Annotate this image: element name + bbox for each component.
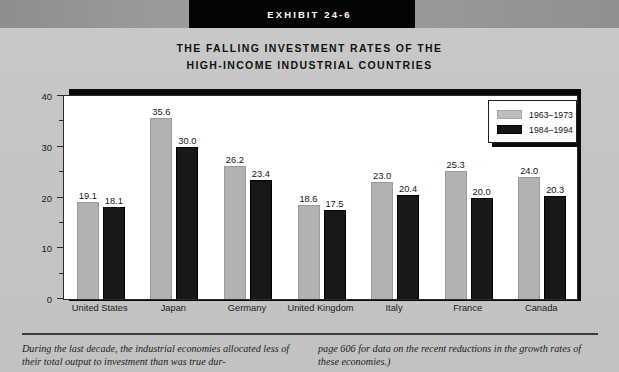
bar-value-label: 26.2 xyxy=(226,155,244,165)
legend-item-series-2: 1984–1994 xyxy=(497,122,576,137)
y-axis-tick-label: 0 xyxy=(30,295,52,304)
bar-value-label: 30.0 xyxy=(178,136,196,146)
y-axis-tick-minor xyxy=(59,222,64,223)
x-axis-label-germany: Germany xyxy=(228,303,266,313)
legend-swatch-icon-series-2 xyxy=(497,125,522,134)
bar-germany-series-1: 26.2 xyxy=(224,166,246,299)
bar-japan-series-2: 30.0 xyxy=(176,147,198,299)
x-axis-label-canada: Canada xyxy=(525,303,558,313)
bar-canada-series-1: 24.0 xyxy=(518,177,540,299)
bar-value-label: 24.0 xyxy=(520,166,538,176)
y-axis-tick-label: 10 xyxy=(30,244,52,253)
y-axis-tick-major xyxy=(57,95,64,96)
bar-japan-series-1: 35.6 xyxy=(150,118,172,299)
bar-value-label: 20.3 xyxy=(546,185,564,195)
bar-value-label: 20.4 xyxy=(399,184,417,194)
bar-france-series-1: 25.3 xyxy=(445,171,467,299)
y-axis-tick-minor xyxy=(59,120,64,121)
bar-france-series-2: 20.0 xyxy=(471,198,493,300)
bar-value-label: 18.1 xyxy=(105,196,123,206)
exhibit-page: EXHIBIT 24-6 THE FALLING INVESTMENT RATE… xyxy=(0,0,619,372)
legend-label-series-2: 1984–1994 xyxy=(529,125,573,135)
y-axis-tick-label: 40 xyxy=(30,92,52,101)
bar-canada-series-2: 20.3 xyxy=(544,196,566,299)
y-axis-tick-minor xyxy=(59,171,64,172)
y-axis-tick-major xyxy=(57,197,64,198)
exhibit-label: EXHIBIT 24-6 xyxy=(0,0,619,28)
caption: During the last decade, the industrial e… xyxy=(22,342,600,368)
chart-title-line-2: HIGH-INCOME INDUSTRIAL COUNTRIES xyxy=(0,57,619,74)
bar-value-label: 20.0 xyxy=(473,187,491,197)
y-axis-tick-major xyxy=(57,146,64,147)
chart-title-line-1: THE FALLING INVESTMENT RATES OF THE xyxy=(0,40,619,57)
bar-italy-series-1: 23.0 xyxy=(371,182,393,299)
bar-value-label: 25.3 xyxy=(447,160,465,170)
x-axis-label-italy: Italy xyxy=(386,303,403,313)
bar-value-label: 19.1 xyxy=(79,191,97,201)
legend-label-series-1: 1963–1973 xyxy=(529,110,573,120)
legend-item-series-1: 1963–1973 xyxy=(497,107,576,122)
y-axis-tick-label: 20 xyxy=(30,194,52,203)
y-axis-tick-minor xyxy=(59,273,64,274)
bar-value-label: 23.4 xyxy=(252,169,270,179)
bar-value-label: 35.6 xyxy=(152,107,170,117)
caption-column-right: page 606 for data on the recent reductio… xyxy=(318,342,600,368)
bar-germany-series-2: 23.4 xyxy=(250,180,272,299)
bar-value-label: 23.0 xyxy=(373,171,391,181)
bar-italy-series-2: 20.4 xyxy=(397,195,419,299)
caption-column-left: During the last decade, the industrial e… xyxy=(22,342,304,368)
bar-united-states-series-2: 18.1 xyxy=(103,207,125,299)
x-axis-label-united-states: United States xyxy=(72,303,128,313)
y-axis-tick-major xyxy=(57,298,64,299)
y-axis-tick-label: 30 xyxy=(30,143,52,152)
legend-swatch-icon-series-1 xyxy=(497,110,522,119)
bar-united-kingdom-series-1: 18.6 xyxy=(298,205,320,299)
x-axis-label-japan: Japan xyxy=(161,303,186,313)
bar-united-kingdom-series-2: 17.5 xyxy=(324,210,346,299)
y-axis-tick-major xyxy=(57,247,64,248)
x-axis-label-france: France xyxy=(453,303,482,313)
caption-divider xyxy=(22,333,598,335)
chart-legend: 1963–1973 1984–1994 xyxy=(488,100,577,143)
x-axis-label-united-kingdom: United Kingdom xyxy=(287,303,353,313)
page-title: THE FALLING INVESTMENT RATES OF THE HIGH… xyxy=(0,40,619,74)
bar-value-label: 18.6 xyxy=(299,194,317,204)
bar-value-label: 17.5 xyxy=(325,199,343,209)
bar-united-states-series-1: 19.1 xyxy=(77,202,99,299)
